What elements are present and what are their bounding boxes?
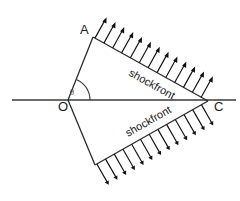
- arrow-lower-10: [175, 120, 187, 141]
- arrow-upper-12: [192, 71, 204, 92]
- shockfront-diagram-svg: A O C θ shockfront shockfront: [0, 0, 240, 201]
- arrow-upper-4: [122, 32, 134, 53]
- arrow-lower-12: [193, 110, 205, 131]
- arrow-upper-10: [175, 62, 187, 83]
- arrow-upper-1: [95, 17, 107, 38]
- arrow-upper-7: [148, 47, 160, 68]
- vertex-label-c: C: [214, 99, 223, 114]
- arrow-upper-6: [139, 42, 151, 63]
- shockfront-diagram-figure: A O C θ shockfront shockfront: [0, 0, 240, 201]
- angle-arc: [77, 80, 90, 100]
- arrow-upper-3: [113, 27, 125, 48]
- arrow-lower-3: [114, 154, 126, 175]
- shockfront-lower-line: [95, 101, 208, 165]
- arrow-lower-4: [123, 149, 135, 170]
- arrow-upper-13: [201, 76, 213, 97]
- arrow-lower-1: [97, 164, 109, 185]
- arrow-upper-9: [166, 57, 178, 78]
- arrow-upper-5: [130, 37, 142, 58]
- arrow-upper-2: [104, 22, 116, 43]
- arrow-lower-5: [132, 144, 144, 165]
- arrow-lower-11: [184, 115, 196, 136]
- vertex-label-a: A: [80, 22, 89, 37]
- arrow-lower-6: [141, 139, 153, 160]
- shockfront-label-lower: shockfront: [123, 103, 173, 138]
- arrow-lower-13: [201, 105, 213, 126]
- arrow-upper-8: [157, 52, 169, 73]
- arrow-lower-2: [106, 159, 118, 180]
- arrow-lower-8: [158, 129, 170, 150]
- arrow-upper-11: [184, 66, 196, 87]
- arrow-lower-7: [149, 134, 161, 155]
- arrow-lower-9: [167, 124, 179, 145]
- cone-edge-lower-line: [68, 100, 95, 165]
- angle-label-theta: θ: [70, 87, 74, 97]
- vertex-label-o: O: [58, 99, 68, 114]
